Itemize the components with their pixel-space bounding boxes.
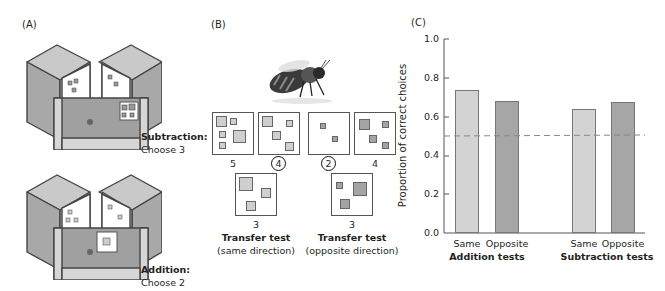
transfer-same-card	[235, 173, 277, 216]
honeybee-icon	[262, 55, 342, 105]
stimulus-count-label: 4	[365, 158, 385, 169]
x-tick-label: Opposite	[600, 238, 646, 249]
bar-addition-opposite	[495, 101, 519, 233]
stimulus-card-4b	[354, 112, 396, 155]
transfer-same-count: 3	[246, 219, 266, 230]
y-tick-label: 0.4	[417, 149, 439, 160]
stimulus-count-circled: 4	[271, 156, 286, 171]
group-label-addition: Addition tests	[445, 251, 529, 262]
x-tick-label: Same	[450, 238, 484, 249]
bar-addition-same	[455, 90, 479, 233]
x-tick-label: Same	[567, 238, 601, 249]
addition-caption-title: Addition:	[141, 264, 190, 275]
x-tick-label: Opposite	[484, 238, 530, 249]
stimulus-card-5	[212, 112, 254, 155]
stimulus-count-label: 5	[223, 158, 243, 169]
y-tick-label: 0.0	[417, 227, 439, 238]
panel-b-label: (B)	[211, 19, 226, 30]
addition-caption-rule: Choose 2	[141, 277, 185, 288]
group-label-subtraction: Subtraction tests	[560, 251, 654, 262]
stimulus-count-circled: 2	[321, 156, 336, 171]
transfer-opposite-card	[331, 173, 373, 216]
y-tick-label: 0.8	[417, 72, 439, 83]
transfer-opposite-subtitle: (opposite direction)	[296, 245, 408, 256]
transfer-same-subtitle: (same direction)	[206, 245, 306, 256]
y-axis-title: Proportion of correct choices	[397, 46, 408, 226]
panel-a-label: (A)	[22, 19, 37, 30]
stimulus-card-2	[308, 112, 350, 155]
transfer-opposite-title: Transfer test	[312, 232, 392, 243]
stimulus-card-4a	[258, 112, 300, 155]
subtraction-caption-rule: Choose 3	[141, 144, 185, 155]
chance-reference-line	[440, 130, 665, 140]
y-tick-label: 0.2	[417, 188, 439, 199]
bar-subtraction-opposite	[611, 102, 635, 233]
y-tick-label: 0.6	[417, 111, 439, 122]
y-tick-label: 1.0	[417, 33, 439, 44]
transfer-same-title: Transfer test	[216, 232, 296, 243]
transfer-opposite-count: 3	[342, 219, 362, 230]
subtraction-caption-title: Subtraction:	[141, 131, 208, 142]
bar-subtraction-same	[572, 109, 596, 233]
panel-c-label: (C)	[411, 17, 426, 28]
